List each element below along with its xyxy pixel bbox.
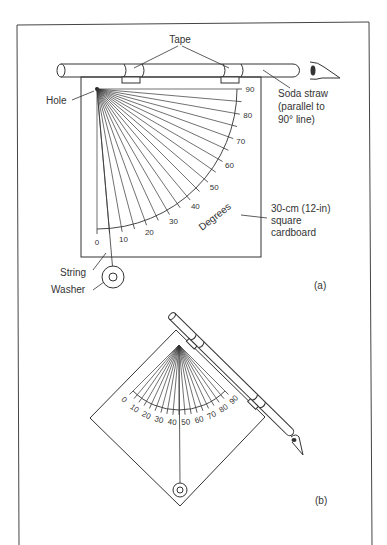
svg-text:0: 0 [95, 238, 100, 247]
figure-b: 0102030405060708090 (b) [90, 311, 327, 506]
svg-text:50: 50 [210, 183, 219, 192]
eye-icon-b [291, 435, 303, 455]
svg-text:30: 30 [153, 414, 164, 425]
svg-text:80: 80 [243, 111, 252, 120]
svg-text:0: 0 [119, 395, 129, 405]
protractor-scale-b: 0102030405060708090 [119, 345, 240, 427]
cardboard-square [81, 77, 261, 257]
svg-text:40: 40 [191, 202, 200, 211]
eye-icon [310, 62, 340, 79]
panel-label-b: (b) [315, 495, 327, 506]
svg-text:10: 10 [128, 402, 141, 415]
plumb-string-b [179, 345, 180, 484]
svg-text:70: 70 [236, 137, 245, 146]
figure-a: Tape Soda straw (parallel to 90° line) H… [46, 34, 340, 295]
degrees-label: Degrees [196, 201, 233, 233]
tape-pieces [122, 64, 243, 83]
cardboard-label: 30-cm (12-in) square cardboard [271, 203, 333, 238]
svg-text:30: 30 [169, 217, 178, 226]
svg-text:40: 40 [167, 417, 177, 427]
hole-label: Hole [46, 95, 67, 106]
cardboard-diamond [90, 330, 265, 506]
svg-text:70: 70 [206, 409, 218, 421]
svg-text:90: 90 [246, 85, 255, 94]
straw-label: Soda straw (parallel to 90° line) [278, 88, 331, 125]
svg-text:80: 80 [217, 402, 230, 415]
svg-text:90: 90 [227, 393, 240, 406]
string-label: String [60, 267, 86, 278]
svg-text:20: 20 [140, 409, 152, 421]
svg-text:10: 10 [119, 235, 128, 244]
plumb-string [97, 89, 113, 272]
svg-text:20: 20 [145, 228, 154, 237]
panel-label-a: (a) [314, 280, 326, 291]
svg-text:50: 50 [181, 417, 191, 427]
clinometer-diagram: Tape Soda straw (parallel to 90° line) H… [0, 0, 387, 545]
tape-label: Tape [169, 34, 191, 45]
svg-text:60: 60 [194, 414, 205, 425]
protractor-scale-a: 0102030405060708090 [95, 85, 255, 247]
washer-label: Washer [51, 284, 86, 295]
svg-text:60: 60 [225, 161, 234, 170]
